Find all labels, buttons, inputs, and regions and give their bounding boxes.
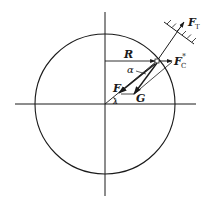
tension-label: F T [187,16,200,31]
lambda-label: λ [112,97,118,106]
diagram-canvas: F T F C * R α F G λ [0,0,208,206]
svg-text:*: * [182,52,186,61]
force-f-label: F [112,82,122,95]
parallelogram-line-1 [134,62,172,94]
svg-text:C: C [181,62,186,70]
svg-text:T: T [195,23,200,31]
force-f-arrow [119,64,155,93]
particle [155,59,159,63]
force-diagram: F T F C * R α F G λ [0,0,208,206]
centrifugal-label: F C * [173,52,186,70]
alpha-label: α [127,64,134,75]
gravity-label: G [136,92,145,105]
radius-label: R [123,48,133,61]
